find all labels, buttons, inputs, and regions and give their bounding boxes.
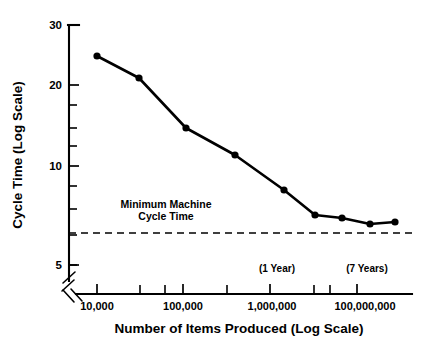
one-year-label: (1 Year): [259, 263, 295, 274]
x-axis-title: Number of Items Produced (Log Scale): [114, 321, 363, 336]
data-point: [93, 52, 100, 59]
x-tick-label-1000000: 1,000,000: [248, 300, 297, 312]
chart-svg: 30 20 10 5 10,000 100,0: [0, 0, 426, 348]
x-tick-label-10000: 10,000: [80, 300, 114, 312]
seven-years-label: (7 Years): [346, 263, 388, 274]
data-point: [338, 214, 345, 221]
x-tick-label-100000000: 100,000,000: [334, 300, 395, 312]
data-point: [311, 211, 318, 218]
y-tick-label-30: 30: [49, 19, 62, 31]
data-point: [135, 74, 142, 81]
chart-container: 30 20 10 5 10,000 100,0: [0, 0, 426, 348]
data-point: [231, 151, 238, 158]
data-point: [391, 218, 398, 225]
axis-break-marks: [62, 272, 82, 302]
y-axis-title: Cycle Time (Log Scale): [10, 81, 25, 229]
minimum-cycle-time-threshold: Minimum Machine Cycle Time: [69, 198, 412, 233]
year-annotations: (1 Year) (7 Years): [259, 263, 388, 274]
y-tick-label-10: 10: [49, 160, 62, 172]
minimum-cycle-time-label-line1: Minimum Machine: [120, 198, 211, 210]
y-tick-label-20: 20: [49, 79, 62, 91]
y-tick-label-5: 5: [56, 259, 63, 271]
data-point: [366, 220, 373, 227]
data-point: [182, 124, 189, 131]
minimum-cycle-time-label-line2: Cycle Time: [138, 210, 193, 222]
y-axis: 30 20 10 5: [49, 19, 79, 281]
data-point: [280, 186, 287, 193]
x-tick-label-100000: 100,000: [163, 300, 203, 312]
axis-break-x-left: [63, 290, 74, 302]
x-axis: 10,000 100,000 1,000,000 100,000,000: [76, 284, 412, 312]
